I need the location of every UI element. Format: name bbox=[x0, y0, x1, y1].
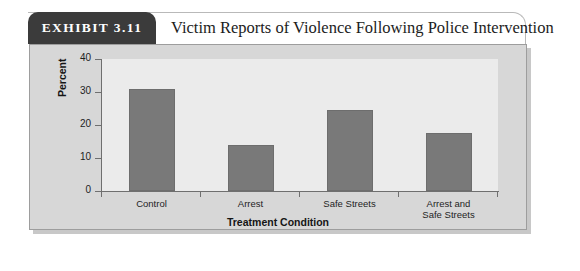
bar bbox=[327, 110, 373, 191]
x-axis-category-label-line: Arrest and bbox=[399, 198, 498, 209]
y-axis-tick: 20 bbox=[95, 125, 101, 126]
y-axis-tick-label: 30 bbox=[80, 85, 91, 96]
x-axis-category-label: Safe Streets bbox=[300, 198, 399, 220]
bar bbox=[228, 145, 274, 191]
exhibit-title: Victim Reports of Violence Following Pol… bbox=[171, 12, 554, 44]
exhibit-header: EXHIBIT 3.11 Victim Reports of Violence … bbox=[28, 12, 526, 44]
x-axis-category-label: Arrest bbox=[201, 198, 300, 220]
x-axis-category-label-line: Arrest bbox=[201, 198, 300, 209]
bar-slot bbox=[201, 59, 300, 191]
x-axis-category-label-line: Safe Streets bbox=[399, 209, 498, 220]
chart-panel: 010203040 Percent Treatment Condition Co… bbox=[29, 44, 527, 230]
y-axis-line bbox=[101, 59, 102, 192]
x-axis-tick bbox=[200, 192, 201, 197]
bar bbox=[426, 133, 472, 191]
exhibit-number-label: EXHIBIT 3.11 bbox=[42, 20, 143, 36]
bar-slot bbox=[300, 59, 399, 191]
bar-slot bbox=[102, 59, 201, 191]
y-axis-tick-label: 10 bbox=[80, 151, 91, 162]
bar bbox=[129, 89, 175, 191]
x-axis-category-label-line: Safe Streets bbox=[300, 198, 399, 209]
bar-slot bbox=[399, 59, 498, 191]
x-axis-category-labels: ControlArrestSafe StreetsArrest andSafe … bbox=[102, 198, 498, 220]
y-axis-tick-label: 20 bbox=[80, 118, 91, 129]
x-axis-tick bbox=[398, 192, 399, 197]
y-axis-tick-label: 40 bbox=[80, 52, 91, 63]
plot-area bbox=[102, 59, 498, 191]
y-axis-tick: 40 bbox=[95, 59, 101, 60]
x-axis-category-label-line: Control bbox=[102, 198, 201, 209]
y-axis-tick: 10 bbox=[95, 158, 101, 159]
x-axis-line bbox=[101, 191, 499, 192]
y-axis-tick: 30 bbox=[95, 92, 101, 93]
exhibit-number-tab: EXHIBIT 3.11 bbox=[28, 12, 156, 44]
x-axis-category-label: Control bbox=[102, 198, 201, 220]
bar-series bbox=[102, 59, 498, 191]
exhibit-figure: EXHIBIT 3.11 Victim Reports of Violence … bbox=[0, 0, 580, 271]
x-axis-tick bbox=[101, 192, 102, 197]
x-axis-category-label: Arrest andSafe Streets bbox=[399, 198, 498, 220]
y-axis-title: Percent bbox=[56, 58, 68, 97]
x-axis-tick bbox=[497, 192, 498, 197]
x-axis-tick bbox=[299, 192, 300, 197]
y-axis-tick-label: 0 bbox=[85, 184, 91, 195]
